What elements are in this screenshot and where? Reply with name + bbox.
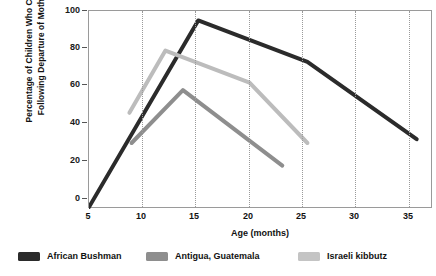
gridline-35 xyxy=(409,11,410,207)
legend-label-antigua-guatemala: Antigua, Guatemala xyxy=(175,251,260,261)
series-line-antigua-guatemala xyxy=(132,90,283,165)
plot-area xyxy=(88,10,432,208)
gridline-25 xyxy=(302,11,303,207)
gridline-15 xyxy=(195,11,196,207)
y-tick-label-0: 0 xyxy=(56,192,80,204)
y-tick-label-100: 100 xyxy=(56,4,80,16)
y-axis-title: Percentage of Children Who Cried Followi… xyxy=(24,0,54,148)
legend-item-israeli-kibbutz: Israeli kibbutz xyxy=(298,248,387,264)
legend-item-antigua-guatemala: Antigua, Guatemala xyxy=(146,248,260,264)
x-tick-label-30: 30 xyxy=(339,211,369,221)
y-tick-mark-0 xyxy=(82,198,87,199)
y-axis-title-line2: Following Departure of Mother xyxy=(36,0,48,148)
y-axis-title-line1: Percentage of Children Who Cried xyxy=(24,0,36,148)
data-series-layer xyxy=(89,11,433,209)
y-axis-ticks: 100 80 60 40 20 0 xyxy=(56,0,80,276)
gridline-10 xyxy=(142,11,143,207)
x-tick-label-15: 15 xyxy=(179,211,209,221)
chart-legend: African Bushman Antigua, Guatemala Israe… xyxy=(0,248,436,266)
gridline-30 xyxy=(355,11,356,207)
legend-swatch-african-bushman xyxy=(18,252,40,261)
y-tick-label-40: 40 xyxy=(56,116,80,128)
series-line-african-bushman xyxy=(89,20,417,207)
y-tick-label-60: 60 xyxy=(56,78,80,90)
y-tick-mark-60 xyxy=(82,84,87,85)
x-tick-label-20: 20 xyxy=(233,211,263,221)
legend-swatch-antigua-guatemala xyxy=(146,252,168,261)
x-axis-title: Age (months) xyxy=(88,228,432,238)
x-tick-label-10: 10 xyxy=(126,211,156,221)
y-tick-mark-100 xyxy=(82,10,87,11)
legend-label-israeli-kibbutz: Israeli kibbutz xyxy=(327,251,387,261)
series-line-israeli-kibbutz xyxy=(129,51,307,143)
y-tick-mark-80 xyxy=(82,47,87,48)
y-tick-mark-40 xyxy=(82,122,87,123)
legend-swatch-israeli-kibbutz xyxy=(298,252,320,261)
x-tick-label-35: 35 xyxy=(393,211,423,221)
chart-container: Percentage of Children Who Cried Followi… xyxy=(0,0,436,276)
x-tick-label-5: 5 xyxy=(73,211,103,221)
gridline-20 xyxy=(249,11,250,207)
y-tick-label-20: 20 xyxy=(56,154,80,166)
legend-label-african-bushman: African Bushman xyxy=(47,251,122,261)
y-tick-label-80: 80 xyxy=(56,41,80,53)
y-tick-mark-20 xyxy=(82,160,87,161)
x-tick-label-25: 25 xyxy=(286,211,316,221)
legend-item-african-bushman: African Bushman xyxy=(18,248,122,264)
